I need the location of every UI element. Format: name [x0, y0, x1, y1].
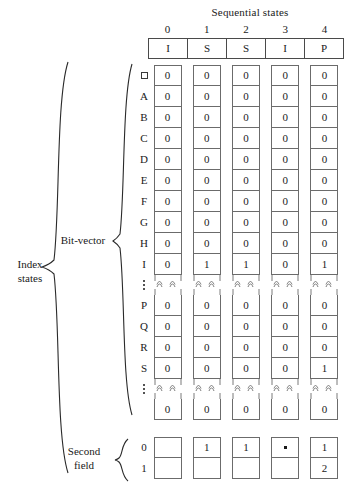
bit-vector-cell-box: 0 — [154, 233, 182, 254]
second-field-row: 0111 — [132, 437, 344, 458]
bit-vector-cell-box: 0 — [271, 295, 299, 316]
bit-vector-row-cells: 00000 — [148, 316, 344, 337]
second-field-cell — [148, 458, 187, 479]
bit-vector-row-cells: 00000 — [148, 233, 344, 254]
bit-vector-cell-box: 0 — [193, 86, 221, 107]
bit-vector-cell-box: 0 — [154, 107, 182, 128]
bit-vector-cell-box: 0 — [310, 233, 338, 254]
bit-vector-row: R00000 — [132, 337, 344, 358]
bit-vector-cell-box: 0 — [193, 149, 221, 170]
second-field-cell — [187, 458, 226, 479]
bit-vector-cell-box — [154, 275, 182, 295]
bit-vector-cell: 0 — [187, 86, 226, 107]
bit-vector-cell-box: 0 — [310, 191, 338, 212]
bit-vector-cell: 0 — [226, 191, 265, 212]
table-break-squiggle-icon — [310, 379, 338, 399]
bit-vector-grid: 00000A00000B00000C00000D00000E00000F0000… — [132, 65, 344, 420]
bit-vector-cell-box: 0 — [271, 316, 299, 337]
bit-vector-cell: 0 — [305, 191, 344, 212]
table-break-squiggle-icon — [232, 275, 260, 295]
second-field-cell — [266, 458, 305, 479]
second-field-cell: 1 — [187, 437, 226, 458]
bit-vector-cell: 0 — [226, 128, 265, 149]
bit-vector-cell-box: 0 — [154, 316, 182, 337]
second-field-row-cells: 2 — [148, 458, 344, 479]
bit-vector-row-cells: 00000 — [148, 107, 344, 128]
second-field-cell-box: 1 — [232, 437, 260, 458]
bit-vector-cell: 0 — [305, 107, 344, 128]
index-states-label-line2: states — [6, 272, 54, 286]
bit-vector-cell-box: 0 — [154, 254, 182, 275]
bit-vector-row: 00000 — [132, 399, 344, 420]
bit-vector-row-cells: 00000 — [148, 170, 344, 191]
bit-vector-cell: 0 — [305, 399, 344, 420]
bit-vector-cell: 0 — [148, 149, 187, 170]
bit-vector-row: G00000 — [132, 212, 344, 233]
bit-vector-cell-box — [271, 379, 299, 399]
bit-vector-cell-box: 0 — [271, 254, 299, 275]
bit-vector-cell: 0 — [305, 170, 344, 191]
bit-vector-cell-box: 0 — [193, 212, 221, 233]
bit-vector-cell-box: 0 — [310, 107, 338, 128]
bit-vector-cell: 0 — [226, 170, 265, 191]
bit-vector-row-cells: 00000 — [148, 212, 344, 233]
bit-vector-row: 00000 — [132, 65, 344, 86]
bit-vector-cell: 0 — [187, 316, 226, 337]
bit-vector-row: E00000 — [132, 170, 344, 191]
bit-vector-cell-box: 0 — [193, 316, 221, 337]
bit-vector-cell-box: 0 — [310, 295, 338, 316]
bit-vector-cell: 0 — [187, 128, 226, 149]
second-field-label-line1: Second — [56, 445, 112, 459]
state-cell: S — [188, 39, 227, 58]
bit-vector-brace — [112, 62, 134, 417]
bit-vector-cell: 0 — [148, 316, 187, 337]
bit-vector-cell — [266, 275, 305, 295]
bit-vector-cell: 0 — [187, 337, 226, 358]
bit-vector-cell-box: 0 — [154, 399, 182, 420]
bit-vector-cell — [305, 379, 344, 399]
bit-vector-cell: 1 — [226, 254, 265, 275]
bit-vector-cell-box: 0 — [271, 191, 299, 212]
bit-vector-cell-box: 0 — [193, 170, 221, 191]
vertical-ellipsis-icon — [143, 384, 145, 394]
second-field-cell-box — [193, 458, 221, 479]
bit-vector-cell: 0 — [187, 65, 226, 86]
bit-vector-cell-box: 0 — [154, 149, 182, 170]
bit-vector-cell: 0 — [187, 233, 226, 254]
bit-vector-cell-box: 1 — [310, 358, 338, 379]
bit-vector-cell-box: 0 — [271, 170, 299, 191]
bit-vector-cell-box: 0 — [310, 316, 338, 337]
bit-vector-cell: 0 — [187, 107, 226, 128]
bit-vector-row-cells: 00000 — [148, 128, 344, 149]
bit-vector-break-row — [132, 379, 344, 399]
bit-vector-cell-box: 0 — [271, 149, 299, 170]
bit-vector-row-cells: 00001 — [148, 358, 344, 379]
bit-vector-cell: 0 — [266, 128, 305, 149]
bit-vector-cell-box: 0 — [232, 191, 260, 212]
bit-vector-cell-box: 0 — [232, 107, 260, 128]
table-break-squiggle-icon — [232, 379, 260, 399]
bit-vector-row: S00001 — [132, 358, 344, 379]
bit-vector-cell: 0 — [148, 212, 187, 233]
bit-vector-cell-box: 0 — [232, 233, 260, 254]
bit-vector-cell: 0 — [148, 295, 187, 316]
bit-vector-cell: 0 — [148, 65, 187, 86]
bit-vector-cell-box: 0 — [232, 358, 260, 379]
bit-vector-cell-box: 0 — [271, 399, 299, 420]
bit-vector-cell-box: 0 — [271, 107, 299, 128]
bit-vector-cell-box: 0 — [154, 358, 182, 379]
bit-vector-cell: 0 — [266, 358, 305, 379]
bit-vector-cell-box: 0 — [271, 65, 299, 86]
bit-vector-cell — [226, 275, 265, 295]
bit-vector-cell: 0 — [226, 399, 265, 420]
bit-vector-cell: 0 — [266, 191, 305, 212]
bit-vector-cell: 0 — [266, 316, 305, 337]
second-field-cell-box: 2 — [310, 458, 338, 479]
bit-vector-cell-box: 0 — [154, 128, 182, 149]
second-field-label-line2: field — [56, 459, 112, 473]
bit-vector-cell-box — [271, 275, 299, 295]
bit-vector-row-cells — [148, 275, 344, 295]
second-field-cell-box: 1 — [310, 437, 338, 458]
column-number: 1 — [187, 23, 226, 35]
bit-vector-cell-box: 0 — [271, 86, 299, 107]
